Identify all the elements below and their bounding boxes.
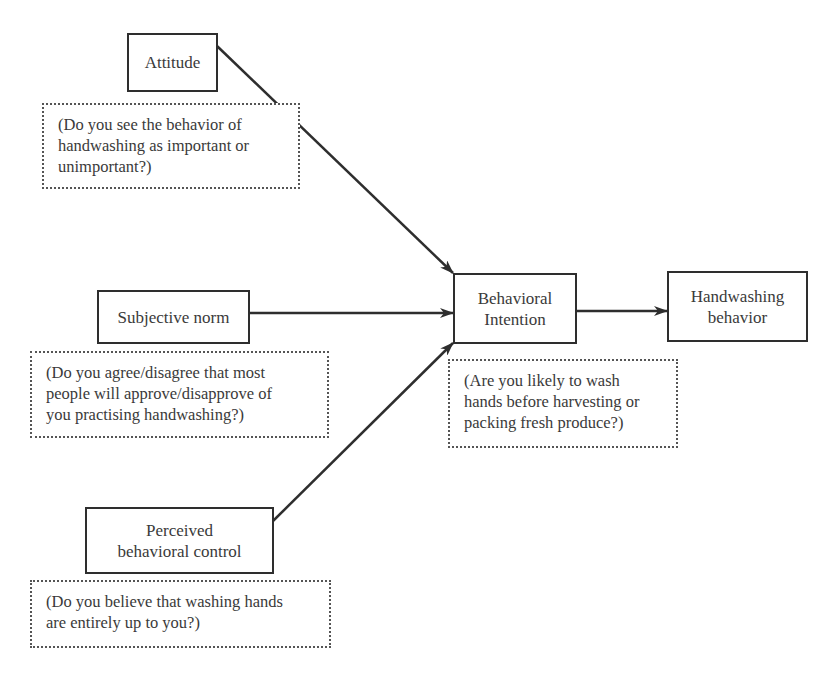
perceived-control-note: (Do you believe that washing hands are e… bbox=[30, 580, 331, 648]
attitude-node: Attitude bbox=[127, 33, 218, 92]
intention-note: (Are you likely to wash hands before har… bbox=[448, 359, 678, 448]
perceived-control-node: Perceived behavioral control bbox=[85, 507, 274, 574]
behavior-node: Handwashing behavior bbox=[667, 271, 808, 342]
intention-note-line: packing fresh produce?) bbox=[464, 412, 666, 433]
perceived-control-label-2: behavioral control bbox=[117, 541, 241, 562]
attitude-label: Attitude bbox=[145, 52, 201, 73]
intention-note-line: hands before harvesting or bbox=[464, 391, 666, 412]
attitude-note-line: unimportant?) bbox=[58, 156, 288, 177]
subjective-norm-node: Subjective norm bbox=[97, 290, 250, 344]
subjective-norm-note-line: you practising handwashing?) bbox=[46, 404, 317, 425]
intention-note-line: (Are you likely to wash bbox=[464, 370, 666, 391]
intention-label-2: Intention bbox=[484, 309, 545, 330]
subjective-norm-note-line: (Do you agree/disagree that most bbox=[46, 362, 317, 383]
attitude-note-line: (Do you see the behavior of bbox=[58, 114, 288, 135]
attitude-note: (Do you see the behavior of handwashing … bbox=[42, 103, 300, 189]
perceived-control-label-1: Perceived bbox=[146, 520, 213, 541]
perceived-control-note-line: are entirely up to you?) bbox=[46, 612, 319, 633]
perceived-control-note-line: (Do you believe that washing hands bbox=[46, 591, 319, 612]
subjective-norm-label: Subjective norm bbox=[118, 307, 230, 328]
subjective-norm-note-line: people will approve/disapprove of bbox=[46, 383, 317, 404]
behavior-label-1: Handwashing bbox=[691, 286, 784, 307]
intention-label-1: Behavioral bbox=[478, 288, 553, 309]
intention-node: Behavioral Intention bbox=[453, 273, 577, 344]
attitude-note-line: handwashing as important or bbox=[58, 135, 288, 156]
subjective-norm-note: (Do you agree/disagree that most people … bbox=[30, 351, 329, 438]
behavior-label-2: behavior bbox=[708, 307, 767, 328]
